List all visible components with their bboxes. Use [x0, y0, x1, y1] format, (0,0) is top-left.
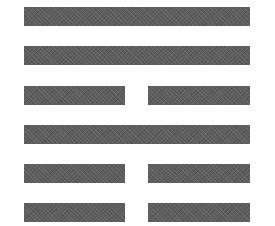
hexagram-line-6-broken: [24, 203, 250, 222]
broken-bar-left: [24, 203, 125, 222]
broken-bar-left: [24, 86, 125, 105]
solid-bar: [24, 46, 250, 65]
broken-bar-right: [148, 86, 250, 105]
broken-bar-right: [148, 164, 250, 183]
hexagram-line-1-solid: [24, 7, 250, 26]
hexagram-line-5-broken: [24, 164, 250, 183]
solid-bar: [24, 7, 250, 26]
broken-bar-left: [24, 164, 125, 183]
hexagram-line-2-solid: [24, 46, 250, 65]
broken-bar-right: [148, 203, 250, 222]
hexagram-line-3-broken: [24, 86, 250, 105]
hexagram-line-4-solid: [24, 125, 250, 144]
solid-bar: [24, 125, 250, 144]
